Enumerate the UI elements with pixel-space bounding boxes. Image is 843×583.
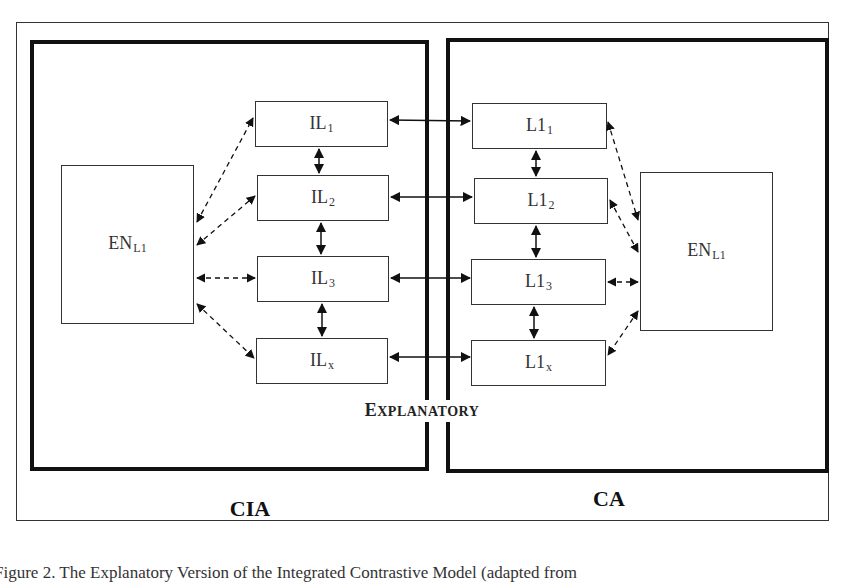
ca-label: CA: [559, 486, 659, 512]
figure-caption: Figure 2. The Explanatory Version of the…: [0, 563, 577, 583]
explanatory-label: EXPLANATORY: [347, 400, 497, 422]
cia-label: CIA: [200, 496, 300, 522]
